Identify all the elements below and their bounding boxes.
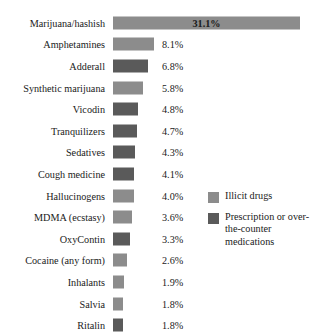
legend-swatch-icon	[208, 192, 219, 203]
bar-row: Cough medicine4.1%	[0, 163, 312, 185]
value-label: 4.8%	[162, 104, 183, 115]
value-label: 8.1%	[162, 39, 183, 50]
category-label: OxyContin	[0, 233, 105, 244]
bar	[113, 38, 154, 51]
bar-row: Synthetic marijuana5.8%	[0, 77, 312, 99]
category-label: Inhalants	[0, 276, 105, 287]
category-label: Tranquilizers	[0, 125, 105, 136]
bar	[113, 275, 124, 288]
legend-item: Illicit drugs	[208, 190, 312, 202]
value-label: 1.9%	[162, 276, 183, 287]
value-label: 2.6%	[162, 255, 183, 266]
category-label: Cocaine (any form)	[0, 255, 105, 266]
bar-row: Tranquilizers4.7%	[0, 120, 312, 142]
category-label: Adderall	[0, 60, 105, 71]
category-label: Vicodin	[0, 104, 105, 115]
value-label: 1.8%	[162, 298, 183, 309]
category-label: Marijuana/hashish	[0, 17, 105, 28]
category-label: Ritalin	[0, 320, 105, 331]
bar	[113, 59, 148, 72]
value-label: 1.8%	[162, 320, 183, 331]
category-label: Salvia	[0, 298, 105, 309]
legend-label: Illicit drugs	[225, 190, 312, 202]
bar-row: Ritalin1.8%	[0, 314, 312, 336]
bar	[113, 297, 123, 310]
bar	[113, 189, 134, 202]
value-label: 4.0%	[162, 190, 183, 201]
bar-row: Vicodin4.8%	[0, 98, 312, 120]
bar	[113, 16, 300, 29]
bar	[113, 232, 130, 245]
category-label: Hallucinogens	[0, 190, 105, 201]
chart-legend: Illicit drugsPrescription or over-the-co…	[208, 190, 312, 257]
bar	[113, 211, 132, 224]
category-label: MDMA (ecstasy)	[0, 212, 105, 223]
value-label: 4.1%	[162, 168, 183, 179]
value-label: 3.6%	[162, 212, 183, 223]
bar-row: Sedatives4.3%	[0, 142, 312, 164]
bar-row: Adderall6.8%	[0, 55, 312, 77]
value-label: 5.8%	[162, 82, 183, 93]
bar	[113, 103, 138, 116]
legend-swatch-icon	[208, 213, 219, 224]
legend-label: Prescription or over-the-counter medicat…	[225, 211, 312, 248]
bar-row: Salvia1.8%	[0, 293, 312, 315]
bar-row: Marijuana/hashish31.1%	[0, 12, 312, 34]
value-label: 6.8%	[162, 60, 183, 71]
category-label: Synthetic marijuana	[0, 82, 105, 93]
category-label: Cough medicine	[0, 168, 105, 179]
bar	[113, 124, 137, 137]
category-label: Sedatives	[0, 147, 105, 158]
bar-row: Amphetamines8.1%	[0, 34, 312, 56]
bar	[113, 254, 127, 267]
bar-row: Inhalants1.9%	[0, 271, 312, 293]
bar	[113, 81, 143, 94]
category-label: Amphetamines	[0, 39, 105, 50]
legend-item: Prescription or over-the-counter medicat…	[208, 211, 312, 248]
bar	[113, 319, 123, 332]
value-label: 4.3%	[162, 147, 183, 158]
value-label: 4.7%	[162, 125, 183, 136]
value-label: 3.3%	[162, 233, 183, 244]
bar	[113, 146, 135, 159]
bar	[113, 167, 134, 180]
